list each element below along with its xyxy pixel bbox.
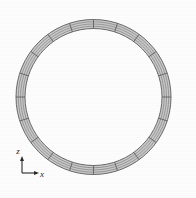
inner-boundary-circle xyxy=(25,29,162,166)
mesh-figure: z x xyxy=(0,0,196,198)
figure-root: z x xyxy=(0,0,196,198)
axis-z-label: z xyxy=(15,146,20,156)
annulus-band xyxy=(16,20,171,175)
axis-x-label: x xyxy=(39,169,44,179)
axis-x-arrowhead xyxy=(34,171,39,175)
axis-z-arrowhead xyxy=(20,156,24,161)
